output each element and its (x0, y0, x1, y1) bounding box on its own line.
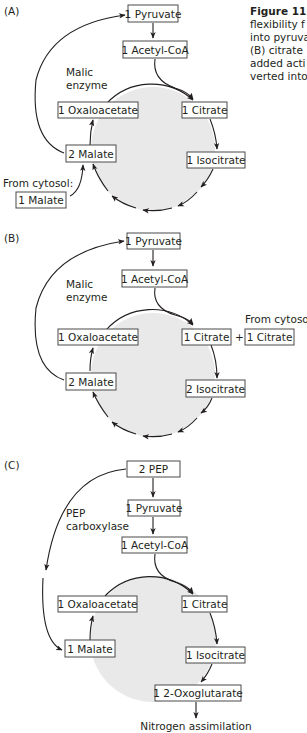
node-label: 2 Isocitrate (186, 383, 245, 395)
node-isocitrate: 1 Isocitrate (186, 647, 245, 663)
panel-b: (B) Malic enzyme From cytosol: + 1 Pyruv… (4, 232, 307, 437)
node-malate: 2 Malate (66, 373, 116, 390)
caption-title: Figure 11. (250, 5, 307, 17)
node-label: 1 Isocitrate (186, 649, 245, 661)
node-isocitrate: 2 Isocitrate (186, 380, 245, 397)
node-label: 1 Oxaloacetate (58, 104, 138, 116)
plus-sign: + (235, 331, 244, 343)
node-label: 1 Acetyl-CoA (121, 273, 189, 285)
node-label: 1 Citrate (182, 104, 228, 116)
caption-line: into pyruva (250, 31, 307, 43)
panel-label: (C) (4, 459, 20, 471)
enzyme-label: PEP (66, 507, 85, 519)
node-label: 1 Oxaloacetate (58, 331, 138, 343)
node-label: 1 Acetyl-CoA (121, 539, 189, 551)
node-acetyl-coa: 1 Acetyl-CoA (121, 270, 189, 287)
enzyme-label: Malic (66, 66, 93, 78)
node-citrate: 1 Citrate (182, 329, 231, 345)
node-oxoglutarate: 1 2-Oxoglutarate (153, 685, 242, 701)
node-acetyl-coa: 1 Acetyl-CoA (121, 41, 189, 58)
node-label: 1 Citrate (182, 598, 228, 610)
enzyme-label: Malic (66, 278, 93, 290)
node-pyruvate: 1 Pyruvate (126, 500, 183, 516)
node-label: 1 Isocitrate (186, 154, 245, 166)
node-cytosol-citrate: 1 Citrate (245, 329, 294, 345)
diagram-canvas: Figure 11. flexibility f into pyruva (B)… (0, 0, 307, 733)
caption-line: verted into (250, 70, 307, 82)
node-citrate: 1 Citrate (182, 102, 228, 118)
node-label: 2 Malate (68, 148, 113, 160)
panel-c: (C) PEP carboxylase 2 PEP 1 Pyruvate 1 A… (4, 459, 252, 732)
node-label: 1 Pyruvate (125, 8, 182, 20)
caption-line: (B) citrate (250, 44, 303, 56)
panel-a: (A) Malic enzyme From cytosol: 1 Pyruvat… (3, 5, 246, 211)
node-label: 1 Citrate (247, 331, 293, 343)
node-label: 1 Malate (18, 194, 63, 206)
panel-label: (B) (4, 232, 19, 244)
node-oxaloacetate: 1 Oxaloacetate (57, 596, 137, 612)
cytosol-label: From cytosol: (3, 177, 73, 189)
node-citrate: 1 Citrate (182, 596, 228, 612)
node-pep: 2 PEP (127, 461, 180, 477)
node-malate: 2 Malate (66, 145, 116, 162)
node-label: 1 Pyruvate (125, 235, 182, 247)
node-label: 1 Acetyl-CoA (121, 44, 189, 56)
node-cytosol-malate: 1 Malate (16, 192, 66, 208)
enzyme-label: carboxylase (66, 520, 129, 532)
node-pyruvate: 1 Pyruvate (125, 233, 182, 249)
node-label: 2 PEP (139, 463, 168, 475)
node-label: 1 Pyruvate (126, 502, 183, 514)
nitrogen-assimilation-label: Nitrogen assimilation (140, 720, 251, 732)
node-label: 1 Oxaloacetate (57, 598, 137, 610)
node-malate: 1 Malate (65, 640, 115, 657)
enzyme-label: enzyme (66, 291, 108, 303)
cytosol-label: From cytosol: (245, 313, 307, 325)
node-pyruvate: 1 Pyruvate (125, 5, 182, 22)
node-label: 1 Citrate (184, 331, 230, 343)
figure-caption: Figure 11. flexibility f into pyruva (B)… (250, 5, 307, 82)
node-label: 1 Malate (67, 643, 112, 655)
node-oxaloacetate: 1 Oxaloacetate (58, 102, 138, 118)
cycle-background (90, 576, 216, 702)
enzyme-label: enzyme (66, 79, 108, 91)
node-label: 1 2-Oxoglutarate (153, 687, 242, 699)
panel-label: (A) (4, 5, 19, 17)
node-acetyl-coa: 1 Acetyl-CoA (121, 537, 189, 553)
caption-line: flexibility f (250, 18, 305, 30)
node-label: 2 Malate (68, 376, 113, 388)
node-isocitrate: 1 Isocitrate (186, 152, 245, 168)
node-oxaloacetate: 1 Oxaloacetate (58, 329, 138, 345)
caption-line: added acti (250, 57, 305, 69)
arrow-to-malate (43, 578, 62, 650)
